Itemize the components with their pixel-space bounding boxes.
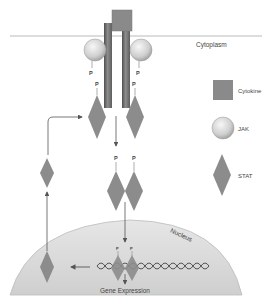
phosphate-label: P	[114, 155, 118, 161]
stat-receptor-left	[88, 95, 106, 139]
jak-right	[130, 39, 152, 61]
legend-stat-swatch	[213, 154, 231, 196]
legend-jak-swatch	[212, 117, 234, 139]
arrow-stat-return	[48, 117, 82, 155]
phosphate-label: P	[132, 155, 136, 161]
legend-stat-label: STAT	[238, 173, 253, 179]
phosphate-label: P	[89, 70, 93, 76]
jak-left	[84, 39, 106, 61]
legend-cytokine-label: Cytokine	[238, 88, 262, 94]
jak-stat-diagram: Nucleus Cytoplasm P P P P P P P P Gene E…	[0, 0, 276, 304]
stat-cytoplasmic	[40, 158, 54, 188]
legend-cytokine-swatch	[213, 80, 233, 100]
phosphate-label: P	[116, 246, 119, 251]
receptor-left	[104, 23, 112, 108]
legend-jak-label: JAK	[238, 126, 249, 132]
phosphate-label: P	[132, 81, 136, 87]
cytokine	[112, 10, 132, 31]
legend: Cytokine JAK STAT	[212, 80, 262, 196]
phosphate-label: P	[136, 70, 140, 76]
phosphate-label: P	[95, 81, 99, 87]
receptor-right	[122, 31, 130, 108]
cytoplasm-label: Cytoplasm	[196, 41, 227, 49]
stat-dimer-right	[125, 171, 143, 211]
stat-dimer-left	[107, 171, 125, 211]
phosphate-label: P	[130, 246, 133, 251]
gene-expression-label: Gene Expression	[100, 287, 150, 295]
